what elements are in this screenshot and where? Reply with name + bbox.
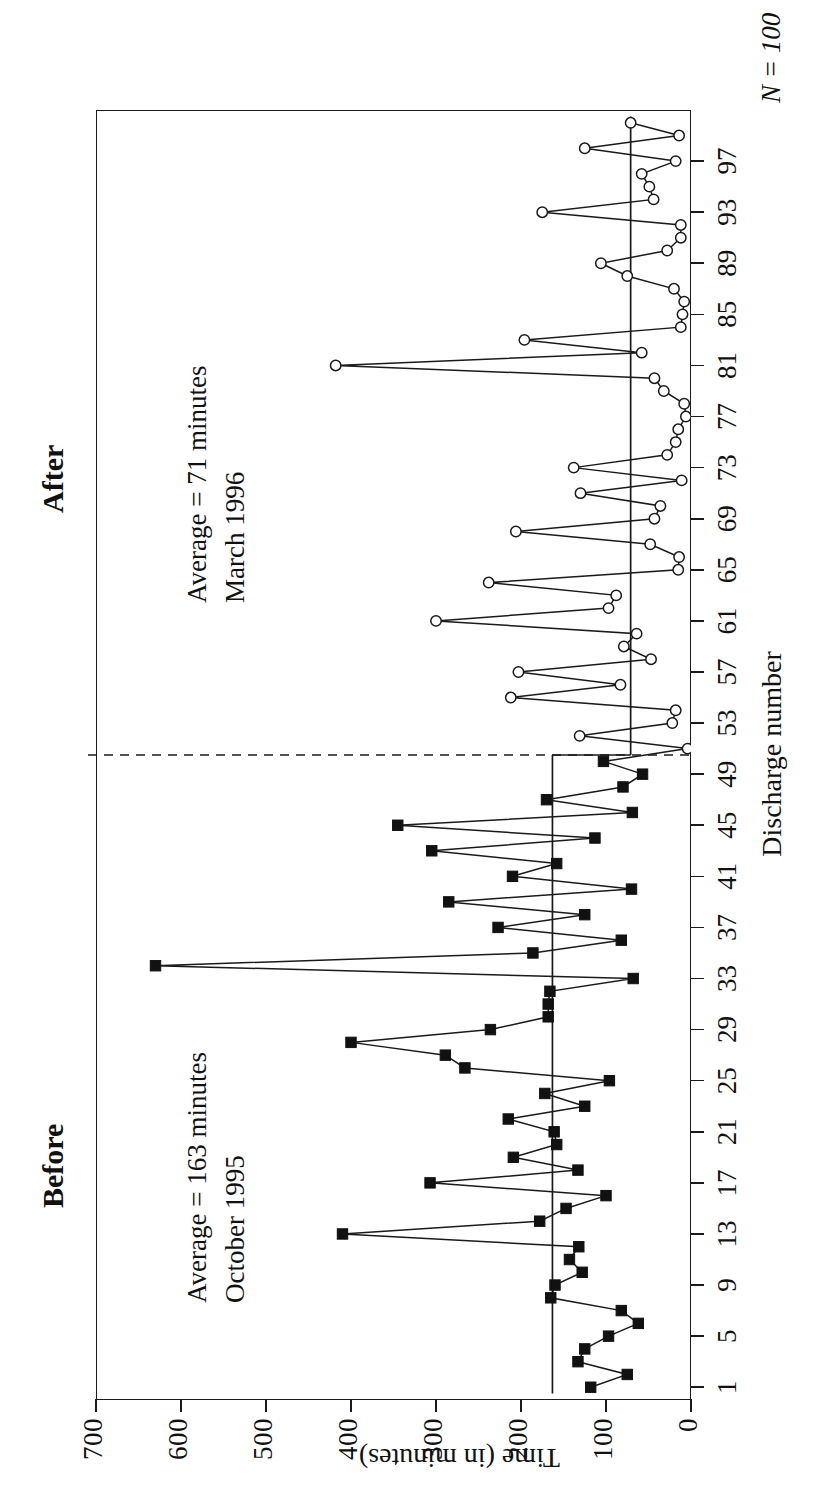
data-point-marker-before [590,833,600,843]
x-axis-tick-label: 1 [712,1380,743,1394]
data-point-marker-after [484,577,494,587]
data-point-marker-before [545,986,555,996]
y-axis-tick [520,1399,522,1412]
x-axis-tick-label: 61 [712,607,743,634]
data-point-marker-before [444,897,454,907]
x-axis-tick [691,978,704,980]
data-point-marker-before [577,1267,587,1277]
data-point-marker-before [508,1152,518,1162]
x-axis-tick-label: 97 [712,148,743,175]
data-point-marker-before [552,1139,562,1149]
x-axis-tick [691,365,704,367]
data-point-marker-after [655,501,665,511]
data-point-marker-after [519,335,529,345]
data-point-marker-after [671,437,681,447]
phase-note-after-line1: Average = 71 minutes [182,366,212,603]
data-point-marker-before [393,820,403,830]
data-point-marker-after [574,731,584,741]
data-point-marker-after [667,718,677,728]
data-point-marker-before [543,1012,553,1022]
data-point-marker-before [546,1293,556,1303]
data-point-marker-after [646,654,656,664]
data-point-marker-after [676,475,686,485]
x-axis-tick [691,1386,704,1388]
data-point-marker-before [503,1114,513,1124]
x-axis-tick [691,314,704,316]
x-axis-tick [691,1029,704,1031]
data-point-marker-after [659,386,669,396]
x-axis-tick-label: 5 [712,1329,743,1343]
data-point-marker-before [580,1344,590,1354]
data-point-marker-after [674,552,684,562]
x-axis-tick-label: 93 [712,199,743,226]
data-point-marker-before [628,973,638,983]
data-point-marker-before [622,1369,632,1379]
data-point-marker-before [535,1216,545,1226]
y-axis-tick [605,1399,607,1412]
y-axis-tick [180,1399,182,1412]
data-point-marker-before [573,1165,583,1175]
x-axis-tick [691,927,704,929]
data-point-marker-before [550,1280,560,1290]
data-point-marker-after [575,488,585,498]
x-axis-tick-label: 41 [712,863,743,890]
data-point-marker-after [676,322,686,332]
data-point-marker-after [596,258,606,268]
phase-note-before-line1: Average = 163 minutes [182,1052,212,1303]
data-point-marker-after [676,233,686,243]
data-point-marker-after [669,284,679,294]
x-axis-tick-label: 49 [712,761,743,788]
data-point-marker-after [637,169,647,179]
data-point-marker-before [616,1305,626,1315]
data-point-marker-after [431,616,441,626]
data-point-marker-after [676,220,686,230]
x-axis-tick [691,824,704,826]
data-point-marker-after [677,309,687,319]
x-axis-tick [691,1080,704,1082]
x-axis-tick [691,569,704,571]
y-axis-tick [690,1399,692,1412]
data-point-marker-before [460,1063,470,1073]
phase-heading-before: Before [36,1124,70,1208]
y-axis-tick [350,1399,352,1412]
data-point-marker-before [637,769,647,779]
x-axis-tick-label: 25 [712,1067,743,1094]
data-point-marker-after [648,194,658,204]
data-point-marker-after [580,143,590,153]
y-axis-tick-label: 100 [588,1418,619,1508]
x-axis-tick-label: 65 [712,556,743,583]
phase-note-before-line2: October 1995 [220,1155,250,1303]
rotated-figure-stage: 0100200300400500600700159131721252933374… [0,0,819,1508]
x-axis-tick [691,211,704,213]
data-point-marker-after [622,271,632,281]
data-point-marker-after [671,705,681,715]
x-axis-tick [691,671,704,673]
phase-note-after: Average = 71 minutes March 1996 [178,366,255,603]
data-point-marker-before [627,807,637,817]
x-axis-tick [691,876,704,878]
x-axis-tick [691,1233,704,1235]
y-axis-title: Time (in minutes) [359,1442,560,1474]
x-axis-tick [691,773,704,775]
data-point-marker-after [645,539,655,549]
x-axis-tick [691,416,704,418]
data-point-marker-after [674,130,684,140]
data-point-marker-after [662,450,672,460]
data-point-marker-after [681,411,691,421]
y-axis-tick [435,1399,437,1412]
data-point-marker-before [552,858,562,868]
data-point-marker-after [662,245,672,255]
x-axis-tick [691,620,704,622]
data-point-marker-before [603,1331,613,1341]
data-point-marker-before [616,935,626,945]
data-point-marker-after [506,692,516,702]
sample-size-label: N = 100 [756,13,787,103]
data-point-marker-after [569,462,579,472]
x-axis-tick [691,262,704,264]
x-axis-tick-label: 17 [712,1169,743,1196]
data-point-marker-after [671,156,681,166]
data-point-marker-after [644,181,654,191]
data-point-marker-after [682,743,692,753]
data-point-marker-after [631,628,641,638]
run-chart: 0100200300400500600700159131721252933374… [0,0,819,1508]
